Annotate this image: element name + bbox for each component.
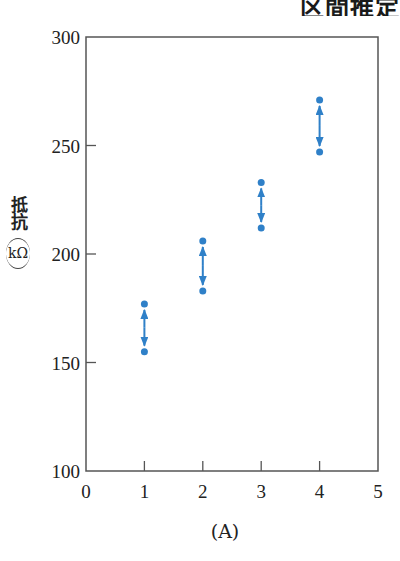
y-tick-label: 150 — [52, 353, 81, 374]
x-tick-label: 0 — [81, 481, 91, 502]
y-tick-label: 200 — [52, 244, 81, 265]
upper-bound-point — [199, 237, 206, 244]
y-tick-label: 100 — [52, 461, 81, 482]
lower-bound-point — [316, 149, 323, 156]
x-tick-label: 5 — [373, 481, 383, 502]
y-tick-label: 250 — [52, 136, 81, 157]
upper-bound-point — [258, 179, 265, 186]
upper-bound-point — [141, 300, 148, 307]
x-tick-label: 4 — [315, 481, 325, 502]
lower-bound-point — [258, 224, 265, 231]
y-tick-label: 300 — [52, 27, 81, 48]
x-tick-label: 3 — [256, 481, 266, 502]
x-tick-label: 1 — [140, 481, 150, 502]
y-axis-label: 抵抗 kΩ — [6, 196, 30, 269]
upper-bound-point — [316, 96, 323, 103]
plot-frame — [86, 37, 378, 471]
lower-bound-point — [199, 287, 206, 294]
x-axis-label: (A) — [200, 520, 250, 542]
lower-bound-point — [141, 348, 148, 355]
x-tick-label: 2 — [198, 481, 208, 502]
chart-plot-area: 100150200250300012345 — [0, 0, 400, 561]
y-axis-unit: kΩ — [6, 238, 30, 269]
y-axis-label-text: 抵抗 — [8, 196, 29, 230]
